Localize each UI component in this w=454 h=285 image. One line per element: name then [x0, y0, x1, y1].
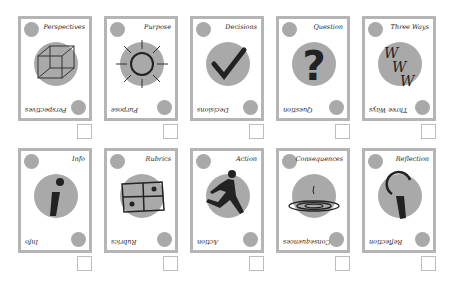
question-mark-icon	[329, 100, 344, 115]
card-title: Action	[236, 155, 257, 163]
card-title: Consequences	[296, 155, 343, 163]
cube-icon	[71, 100, 86, 115]
select-checkbox-rubrics[interactable]	[163, 256, 178, 271]
checkmark-icon	[243, 100, 258, 115]
cube-icon	[26, 34, 86, 94]
sun-icon	[157, 100, 172, 115]
svg-text:?: ?	[302, 43, 325, 89]
card-info[interactable]: Info Info	[18, 148, 92, 253]
runner-icon	[198, 166, 258, 226]
card-reflection[interactable]: Reflection Reflection	[362, 148, 436, 253]
ripple-icon	[329, 232, 344, 247]
select-checkbox-consequences[interactable]	[335, 256, 350, 271]
card-title-inverted: Rubrics	[111, 238, 136, 246]
card-title-inverted: Action	[197, 238, 218, 246]
card-title-inverted: Consequences	[283, 238, 330, 246]
card-title-inverted: Question	[283, 106, 313, 114]
select-checkbox-action[interactable]	[249, 256, 264, 271]
select-checkbox-decisions[interactable]	[249, 124, 264, 139]
select-checkbox-three-ways[interactable]	[421, 124, 436, 139]
select-checkbox-info[interactable]	[77, 256, 92, 271]
info-icon	[71, 232, 86, 247]
card-title: Three Ways	[391, 23, 429, 31]
card-title-inverted: Info	[25, 238, 38, 246]
www-icon: WWW	[370, 34, 430, 94]
checkmark-icon	[198, 34, 258, 94]
card-title: Perspectives	[43, 23, 85, 31]
select-checkbox-purpose[interactable]	[163, 124, 178, 139]
card-action[interactable]: Action Action	[190, 148, 264, 253]
card-title-inverted: Reflection	[369, 238, 402, 246]
svg-text:W: W	[400, 73, 416, 89]
card-question[interactable]: Question ? Question	[276, 16, 350, 121]
card-consequences[interactable]: Consequences Consequences	[276, 148, 350, 253]
sun-icon	[112, 34, 172, 94]
card-purpose[interactable]: Purpose Purpose	[104, 16, 178, 121]
magnifier-icon	[370, 166, 430, 226]
card-three-ways[interactable]: Three Ways WWW Three Ways	[362, 16, 436, 121]
card-rubrics[interactable]: Rubrics Rubrics	[104, 148, 178, 253]
card-title: Purpose	[144, 23, 171, 31]
info-icon	[26, 166, 86, 226]
ripple-icon	[284, 166, 344, 226]
card-title: Rubrics	[146, 155, 171, 163]
rubric-grid-icon	[112, 166, 172, 226]
card-title-inverted: Three Ways	[369, 106, 407, 114]
card-title: Info	[72, 155, 85, 163]
select-checkbox-perspectives[interactable]	[77, 124, 92, 139]
select-checkbox-reflection[interactable]	[421, 256, 436, 271]
card-title-inverted: Perspectives	[25, 106, 67, 114]
magnifier-icon	[415, 232, 430, 247]
www-icon	[415, 100, 430, 115]
card-title: Question	[314, 23, 344, 31]
runner-icon	[243, 232, 258, 247]
card-decisions[interactable]: Decisions Decisions	[190, 16, 264, 121]
question-mark-icon: ?	[284, 34, 344, 94]
card-title-inverted: Purpose	[111, 106, 138, 114]
card-title-inverted: Decisions	[197, 106, 229, 114]
rubric-grid-icon	[157, 232, 172, 247]
card-perspectives[interactable]: Perspectives Perspectives	[18, 16, 92, 121]
select-checkbox-question[interactable]	[335, 124, 350, 139]
card-title: Reflection	[396, 155, 429, 163]
card-title: Decisions	[225, 23, 257, 31]
